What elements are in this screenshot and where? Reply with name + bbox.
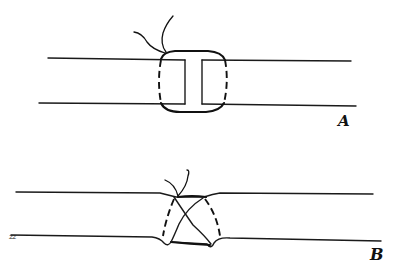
- panel-b-suture-left-dashed: [163, 199, 174, 236]
- panel-b-strand-right-to-left: [171, 198, 203, 242]
- panel-b-strand-left-to-right: [174, 197, 211, 244]
- panel-b-label: B: [370, 247, 384, 263]
- panel-a-label: A: [338, 114, 350, 129]
- panel-a-bottom-wall-left: [39, 103, 185, 104]
- panel-a-thread-end-right: [162, 16, 173, 52]
- suture-diagram: [0, 0, 396, 269]
- panel-b-suture-right-dashed: [205, 199, 220, 236]
- panel-a-bottom-wall-right: [202, 104, 356, 106]
- panel-a-suture-top-arc: [161, 51, 225, 60]
- panel-a: [39, 16, 356, 112]
- panel-a-suture-right-dashed: [224, 60, 227, 103]
- panel-b-thread-end-left: [165, 180, 178, 196]
- panel-a-top-wall-left: [48, 58, 185, 60]
- panel-a-suture-left-dashed: [159, 60, 161, 103]
- panel-b-thread-end-right: [178, 170, 189, 196]
- panel-b: [11, 170, 381, 247]
- panel-b-suture-top-bar: [178, 196, 206, 197]
- side-mark: zz: [9, 233, 15, 241]
- panel-a-thread-end-left: [134, 32, 165, 53]
